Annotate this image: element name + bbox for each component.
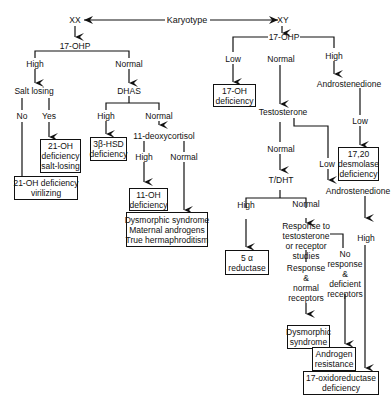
box-line: 21-OH deficiency — [13, 178, 78, 188]
box-line: resistance — [315, 359, 354, 369]
box-line: deficiency — [42, 151, 80, 161]
no-response-deficient-receptors-label: No response & deficient receptors — [327, 249, 362, 299]
box-line: True hermaphroditism — [126, 235, 209, 245]
box-line: 3β-HSD — [93, 139, 123, 149]
box-dysmorphic-xy: Dysmorphic syndrome — [287, 325, 330, 349]
box-21oh-salt-losing: 21-OH deficiency salt-losing — [40, 139, 81, 173]
label-line: Response — [287, 263, 325, 273]
box-line: 5 α — [241, 253, 253, 263]
box-line: 17-OH — [222, 86, 247, 96]
salt-losing-label: Salt losing — [14, 86, 53, 96]
no-label: No — [17, 111, 28, 121]
box-line: 21-OH — [48, 141, 73, 151]
label-line: deficient — [327, 279, 362, 289]
xy-low-label: Low — [225, 54, 241, 64]
box-line: 17-oxidoreductase — [306, 373, 376, 383]
xx-label: XX — [69, 15, 80, 25]
box-line: deficiency — [340, 169, 378, 179]
box-line: deficiency — [90, 149, 128, 159]
testo-normal-label: Normal — [267, 144, 294, 154]
box-androgen-resistance: Androgen resistance — [312, 347, 356, 371]
box-line: Dysmorphic — [286, 327, 331, 337]
box-17oh-deficiency: 17-OH deficiency — [213, 84, 256, 107]
label-line: Response to — [282, 221, 330, 231]
label-line: & — [327, 269, 362, 279]
andro-low-label: Low — [352, 116, 368, 126]
androstenedione-2-label: Androstenedione — [326, 186, 390, 196]
xx-17ohp-label: 17-OHP — [60, 41, 91, 51]
box-line: virilizing — [31, 188, 61, 198]
box-line: 11-OH — [136, 190, 160, 200]
t-dht-label: T/DHT — [268, 175, 293, 185]
deoxy-normal-label: Normal — [170, 152, 197, 162]
box-dysmorphic-xx: Dysmorphic syndrome Maternal androgens T… — [126, 212, 208, 247]
xx-high-label: High — [26, 59, 43, 69]
yes-label: Yes — [42, 111, 56, 121]
xy-label: XY — [277, 15, 288, 25]
box-5a-reductase: 5 α reductase — [225, 250, 269, 275]
box-21oh-virilizing: 21-OH deficiency virilizing — [14, 176, 78, 200]
label-line: normal — [287, 283, 325, 293]
box-line: syndrome — [290, 337, 327, 347]
box-line: salt-losing — [41, 161, 79, 171]
dhas-normal-label: Normal — [145, 111, 172, 121]
tdht-high-label: High — [237, 200, 254, 210]
tdht-normal-label: Normal — [292, 199, 319, 209]
label-line: studies — [282, 251, 330, 261]
box-line: Maternal androgens — [129, 225, 205, 235]
deoxy-high-label: High — [135, 152, 152, 162]
response-to-testosterone-label: Response to testosterone or receptor stu… — [282, 221, 330, 261]
box-line: Dysmorphic syndrome — [125, 215, 210, 225]
box-line: desmolase — [338, 159, 379, 169]
label-line: testosterone — [282, 231, 330, 241]
dhas-high-label: High — [97, 111, 114, 121]
label-line: No — [327, 249, 362, 259]
xy-17ohp-label: 17-OHP — [269, 32, 300, 42]
testosterone-label: Testosterone — [259, 107, 308, 117]
box-line: 17,20 — [348, 149, 369, 159]
deoxycortisol-label: 11-deoxycortisol — [133, 131, 194, 141]
box-line: reductase — [228, 263, 265, 273]
response-normal-receptors-label: Response & normal receptors — [287, 263, 325, 303]
box-line: deficiency — [130, 200, 168, 210]
box-line: Androgen — [316, 349, 353, 359]
box-1720-desmolase-deficiency: 17,20 desmolase deficiency — [338, 147, 379, 181]
dhas-label: DHAS — [117, 86, 141, 96]
label-line: receptors — [287, 293, 325, 303]
xy-normal-label: Normal — [267, 54, 294, 64]
box-17-oxidoreductase-deficiency: 17-oxidoreductase deficiency — [303, 371, 379, 395]
label-line: or receptor — [282, 241, 330, 251]
xx-normal-label: Normal — [115, 59, 142, 69]
karyotype-label: Karyotype — [167, 15, 208, 25]
box-11oh-deficiency: 11-OH deficiency — [129, 188, 168, 211]
box-line: deficiency — [216, 96, 254, 106]
andro2-high-label: High — [357, 233, 374, 243]
label-line: receptors — [327, 289, 362, 299]
xy-high-label: High — [325, 51, 342, 61]
testo-low-label: Low — [319, 159, 335, 169]
androstenedione-1-label: Androstenedione — [317, 79, 381, 89]
label-line: response — [327, 259, 362, 269]
label-line: & — [287, 273, 325, 283]
box-3bhsd-deficiency: 3β-HSD deficiency — [90, 137, 127, 161]
box-line: deficiency — [322, 383, 360, 393]
